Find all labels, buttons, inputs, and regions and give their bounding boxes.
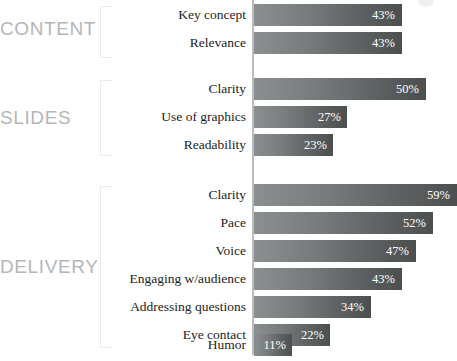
bar[interactable]: 11% <box>254 334 292 356</box>
bar-row: Pace 52% <box>0 212 456 234</box>
bar-track: 34% <box>254 296 371 318</box>
bar[interactable]: 23% <box>254 134 333 156</box>
bar-row: Humor 11% <box>0 334 456 356</box>
bar-value-label: 11% <box>264 334 286 356</box>
bar-value-label: 50% <box>396 78 419 100</box>
category-label: Voice <box>118 240 246 262</box>
category-label: Engaging w/audience <box>118 268 246 290</box>
bar-track: 43% <box>254 4 402 26</box>
bar-value-label: 52% <box>403 212 426 234</box>
bar[interactable]: 27% <box>254 106 347 128</box>
bar-row: Addressing questions 34% <box>0 296 456 318</box>
bar[interactable]: 52% <box>254 212 433 234</box>
category-label: Clarity <box>118 78 246 100</box>
bar-row: Clarity 59% <box>0 184 456 206</box>
bar[interactable]: 43% <box>254 268 402 290</box>
category-label: Use of graphics <box>118 106 246 128</box>
bar-value-label: 23% <box>304 134 327 156</box>
category-label: Clarity <box>118 184 246 206</box>
bar[interactable]: 43% <box>254 4 402 26</box>
bar[interactable]: 47% <box>254 240 416 262</box>
bar-row: Engaging w/audience 43% <box>0 268 456 290</box>
category-label: Humor <box>118 334 246 356</box>
bar[interactable]: 43% <box>254 32 402 54</box>
category-label: Readability <box>118 134 246 156</box>
bar-value-label: 47% <box>386 240 409 262</box>
bar-value-label: 59% <box>427 184 450 206</box>
bar-track: 43% <box>254 32 402 54</box>
bar[interactable]: 59% <box>254 184 457 206</box>
bar-value-label: 43% <box>372 4 395 26</box>
bar-track: 43% <box>254 268 402 290</box>
bar-track: 59% <box>254 184 457 206</box>
bar-row: Readability 23% <box>0 134 456 156</box>
category-label: Pace <box>118 212 246 234</box>
bar-row: Relevance 43% <box>0 32 456 54</box>
bar[interactable]: 50% <box>254 78 426 100</box>
category-label: Addressing questions <box>118 296 246 318</box>
bar-track: 23% <box>254 134 333 156</box>
bar-value-label: 43% <box>372 32 395 54</box>
bar-track: 52% <box>254 212 433 234</box>
bar-row: Use of graphics 27% <box>0 106 456 128</box>
bar[interactable]: 34% <box>254 296 371 318</box>
category-label: Key concept <box>118 4 246 26</box>
bar-row: Clarity 50% <box>0 78 456 100</box>
bar-value-label: 43% <box>372 268 395 290</box>
bar-value-label: 34% <box>341 296 364 318</box>
bar-value-label: 27% <box>318 106 341 128</box>
bar-track: 50% <box>254 78 426 100</box>
bar-track: 11% <box>254 334 292 356</box>
category-label: Relevance <box>118 32 246 54</box>
bar-row: Key concept 43% <box>0 4 456 26</box>
bar-track: 27% <box>254 106 347 128</box>
bar-row: Voice 47% <box>0 240 456 262</box>
bar-track: 47% <box>254 240 416 262</box>
